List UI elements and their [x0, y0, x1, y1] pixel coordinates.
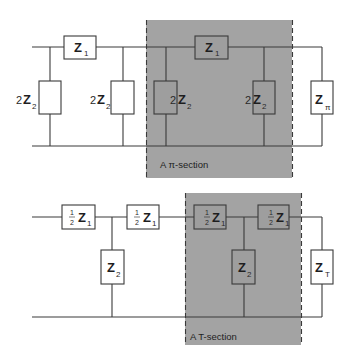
- t-series-impedance-3: 1 2 Z 1: [194, 205, 226, 229]
- t-shunt-impedance-2: Z 2: [232, 250, 255, 284]
- svg-text:2: 2: [116, 270, 121, 279]
- t-series-impedance-2: 1 2 Z 1: [127, 205, 159, 229]
- svg-text:1: 1: [87, 219, 92, 228]
- svg-text:T: T: [325, 270, 330, 279]
- svg-text:1: 1: [269, 209, 273, 216]
- svg-text:1: 1: [84, 49, 89, 58]
- svg-text:Z: Z: [74, 40, 82, 55]
- svg-text:2: 2: [269, 219, 273, 226]
- svg-text:2: 2: [205, 219, 209, 226]
- svg-text:2: 2: [16, 94, 22, 106]
- svg-text:1: 1: [285, 219, 290, 228]
- t-series-impedance-4: 1 2 Z 1: [258, 205, 290, 229]
- pi-shunt-impedance-1: 2 Z 2: [16, 81, 61, 114]
- svg-text:1: 1: [221, 219, 226, 228]
- t-series-impedance-1: 1 2 Z 1: [62, 205, 95, 229]
- pi-termination-impedance: Z π: [311, 81, 333, 114]
- svg-text:Z: Z: [143, 210, 151, 225]
- svg-text:Z: Z: [205, 40, 213, 55]
- svg-text:Z: Z: [253, 92, 261, 107]
- svg-text:2: 2: [262, 102, 267, 111]
- pi-network: Z 1 Z 1 2 Z 2 2 Z 2 2 Z 2: [16, 20, 333, 178]
- svg-text:1: 1: [70, 209, 74, 216]
- svg-text:2: 2: [170, 94, 176, 106]
- svg-text:Z: Z: [97, 92, 105, 107]
- t-network: 1 2 Z 1 1 2 Z 1 1 2 Z 1 1 2 Z: [32, 193, 333, 345]
- svg-text:π: π: [325, 103, 331, 112]
- t-termination-impedance: Z T: [311, 250, 333, 284]
- pi-series-impedance-2: Z 1: [195, 36, 228, 59]
- svg-text:Z: Z: [276, 210, 284, 225]
- svg-text:Z: Z: [23, 92, 31, 107]
- t-shunt-impedance-1: Z 2: [101, 250, 124, 284]
- svg-text:Z: Z: [238, 260, 246, 275]
- svg-text:2: 2: [187, 102, 192, 111]
- svg-text:Z: Z: [178, 92, 186, 107]
- svg-text:2: 2: [90, 94, 96, 106]
- svg-text:2: 2: [32, 102, 37, 111]
- ladder-network-diagram: Z 1 Z 1 2 Z 2 2 Z 2 2 Z 2: [0, 0, 352, 360]
- pi-series-impedance-1: Z 1: [64, 36, 96, 59]
- svg-text:Z: Z: [315, 92, 323, 107]
- t-section-caption: A T-section: [190, 331, 237, 342]
- svg-text:1: 1: [205, 209, 209, 216]
- pi-shunt-impedance-2: 2 Z 2: [90, 81, 134, 114]
- svg-text:2: 2: [135, 219, 139, 226]
- svg-text:Z: Z: [107, 260, 115, 275]
- svg-text:Z: Z: [315, 260, 323, 275]
- svg-text:1: 1: [135, 209, 139, 216]
- svg-text:2: 2: [106, 102, 111, 111]
- pi-section-caption: A π-section: [160, 159, 208, 170]
- svg-text:Z: Z: [78, 210, 86, 225]
- svg-text:Z: Z: [212, 210, 220, 225]
- svg-text:1: 1: [152, 219, 157, 228]
- svg-text:2: 2: [70, 219, 74, 226]
- svg-text:2: 2: [247, 270, 252, 279]
- svg-text:1: 1: [215, 49, 220, 58]
- svg-text:2: 2: [245, 94, 251, 106]
